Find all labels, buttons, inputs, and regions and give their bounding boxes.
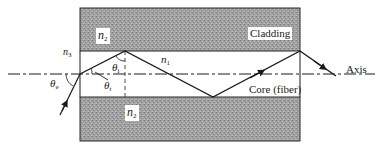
theta-i-label: θi — [112, 62, 119, 75]
cladding-bottom — [80, 97, 300, 141]
theta-t-label: θt — [104, 80, 111, 93]
guided-ray-arrow-1 — [250, 72, 262, 79]
incident-ray-arrow — [62, 103, 66, 111]
theta-t-arc — [91, 68, 92, 74]
cladding-label: Cladding — [248, 27, 292, 40]
theta-e-arc — [66, 74, 73, 86]
fiber-ray-diagram — [0, 0, 383, 150]
core-label: Core (fiber) — [249, 84, 301, 95]
outside-index-label: n3 — [63, 47, 72, 59]
guided-ray-arrow-2 — [314, 61, 324, 68]
cladding-top-index-label: n2 — [96, 28, 110, 44]
cladding-bottom-index-label: n2 — [125, 105, 139, 121]
axis-label: Axis — [346, 64, 367, 75]
core-index-label: n1 — [161, 54, 170, 67]
theta-e-label: θe — [50, 78, 59, 91]
